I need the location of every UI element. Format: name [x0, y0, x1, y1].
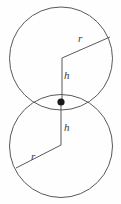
height-label-bottom: h [64, 122, 70, 133]
height-label-top: h [64, 70, 70, 81]
radius-label-top: r [78, 33, 82, 44]
geometry-figure: r h h r [0, 0, 121, 204]
radius-label-bottom: r [31, 151, 35, 162]
center-point-dot [57, 98, 64, 105]
geometry-canvas [0, 0, 121, 204]
